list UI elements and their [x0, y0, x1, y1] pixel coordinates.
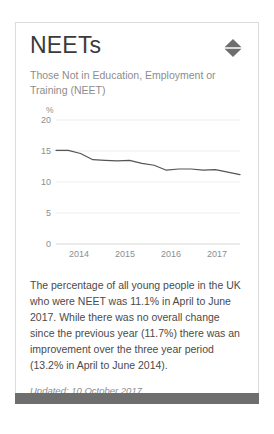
- updated-timestamp: Updated: 10 October 2017: [30, 385, 244, 393]
- card-footer-bar: [15, 393, 259, 404]
- svg-text:2014: 2014: [69, 249, 89, 259]
- svg-text:2015: 2015: [115, 249, 135, 259]
- neet-line-chart: % 051015202014201520162017: [30, 106, 244, 266]
- svg-text:20: 20: [41, 116, 51, 125]
- neets-card: NEETs Those Not in Education, Employment…: [15, 22, 259, 404]
- card-header: NEETs: [30, 23, 244, 59]
- chart-canvas: 051015202014201520162017: [30, 116, 246, 266]
- expand-collapse-diamond-icon[interactable]: [222, 37, 244, 59]
- card-body: NEETs Those Not in Education, Employment…: [16, 23, 258, 393]
- svg-text:15: 15: [41, 146, 51, 156]
- svg-text:0: 0: [46, 239, 51, 249]
- svg-text:2017: 2017: [207, 249, 227, 259]
- card-subtitle: Those Not in Education, Employment or Tr…: [30, 68, 244, 98]
- svg-text:10: 10: [41, 177, 51, 187]
- page-title: NEETs: [30, 33, 101, 58]
- card-description: The percentage of all young people in th…: [30, 278, 244, 374]
- y-axis-unit-label: %: [46, 106, 244, 115]
- neet-rate-series: [56, 150, 240, 174]
- svg-text:5: 5: [46, 208, 51, 218]
- svg-text:2016: 2016: [161, 249, 181, 259]
